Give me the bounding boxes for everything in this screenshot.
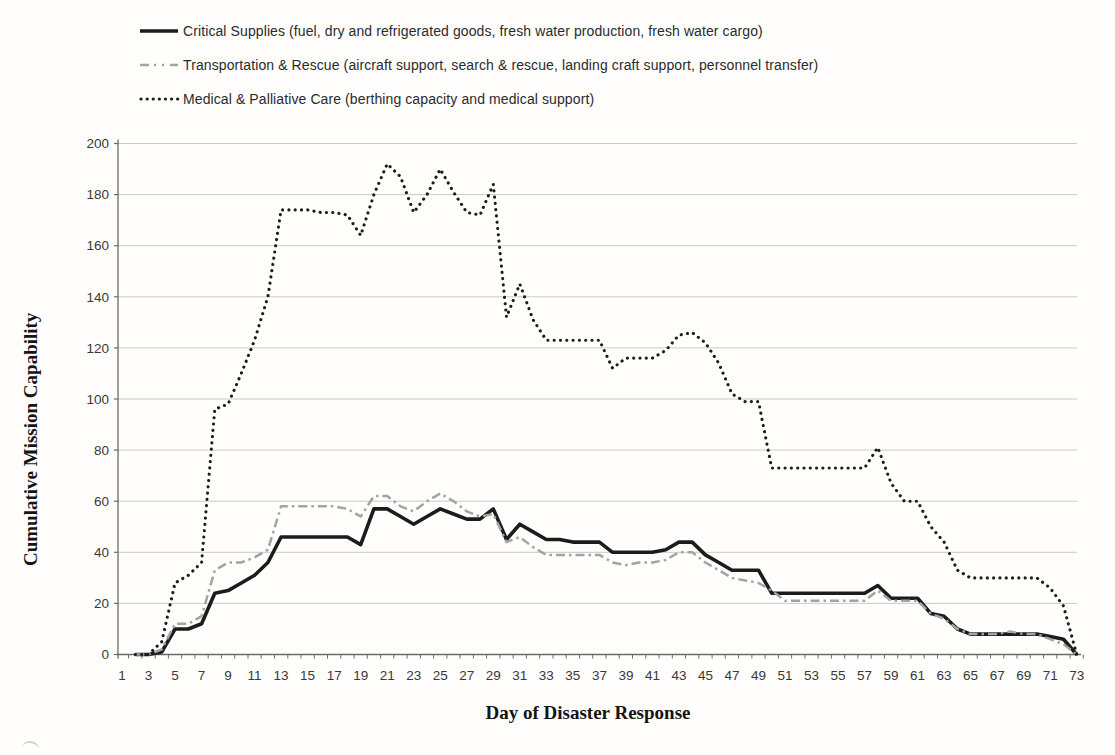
x-tick-label-63: 63 [937, 668, 952, 683]
y-tick-label-20: 20 [94, 596, 109, 611]
x-tick-label-9: 9 [224, 668, 232, 683]
x-tick-label-45: 45 [698, 668, 713, 683]
x-tick-label-59: 59 [884, 668, 899, 683]
x-tick-label-1: 1 [118, 668, 126, 683]
x-tick-label-31: 31 [512, 668, 527, 683]
x-tick-label-49: 49 [751, 668, 766, 683]
x-axis-title: Day of Disaster Response [486, 702, 691, 724]
y-tick-label-180: 180 [86, 187, 109, 202]
x-tick-label-39: 39 [618, 668, 633, 683]
x-tick-label-73: 73 [1069, 668, 1084, 683]
x-tick-label-5: 5 [171, 668, 179, 683]
y-tick-label-40: 40 [94, 545, 109, 560]
y-tick-label-160: 160 [86, 238, 109, 253]
x-tick-label-51: 51 [777, 668, 792, 683]
series-medical-palliative-line [135, 164, 1076, 655]
x-tick-label-53: 53 [804, 668, 819, 683]
x-tick-label-37: 37 [592, 668, 607, 683]
x-tick-label-71: 71 [1043, 668, 1058, 683]
x-tick-label-47: 47 [724, 668, 739, 683]
x-tick-label-15: 15 [300, 668, 315, 683]
x-tick-label-35: 35 [565, 668, 580, 683]
chart-page: Critical Supplies (fuel, dry and refrige… [0, 0, 1115, 755]
x-tick-label-29: 29 [486, 668, 501, 683]
x-tick-label-7: 7 [198, 668, 206, 683]
x-tick-label-43: 43 [671, 668, 686, 683]
x-tick-label-13: 13 [274, 668, 289, 683]
x-tick-label-27: 27 [459, 668, 474, 683]
y-tick-label-200: 200 [86, 136, 109, 151]
x-tick-label-69: 69 [1016, 668, 1031, 683]
x-tick-label-67: 67 [990, 668, 1005, 683]
series-critical-supplies-line [135, 509, 1076, 655]
y-tick-label-120: 120 [86, 341, 109, 356]
x-tick-label-65: 65 [963, 668, 978, 683]
y-tick-label-100: 100 [86, 392, 109, 407]
y-tick-label-140: 140 [86, 290, 109, 305]
x-tick-label-19: 19 [353, 668, 368, 683]
line-chart-plot-area: 0204060801001201401601802001357911131517… [0, 0, 1115, 755]
x-tick-label-57: 57 [857, 668, 872, 683]
x-tick-label-25: 25 [433, 668, 448, 683]
x-tick-label-33: 33 [539, 668, 554, 683]
y-tick-label-0: 0 [101, 647, 109, 662]
y-tick-label-60: 60 [94, 494, 109, 509]
x-tick-label-11: 11 [248, 668, 262, 683]
x-tick-label-3: 3 [145, 668, 153, 683]
x-tick-label-17: 17 [327, 668, 342, 683]
x-tick-label-21: 21 [380, 668, 395, 683]
x-tick-label-55: 55 [830, 668, 845, 683]
x-tick-label-41: 41 [645, 668, 660, 683]
series-transportation-rescue-line [135, 494, 1076, 655]
x-tick-label-23: 23 [406, 668, 421, 683]
y-tick-label-80: 80 [94, 443, 109, 458]
x-tick-label-61: 61 [910, 668, 925, 683]
